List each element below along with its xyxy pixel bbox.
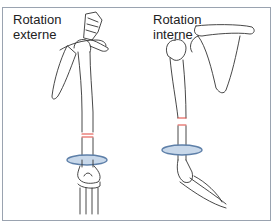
clavicle-icon: [194, 25, 254, 36]
internal-rotation-panel: [162, 25, 254, 208]
elbow-icon: [78, 166, 100, 183]
humerus-shaft-icon: [78, 52, 82, 132]
rotation-arrow-icon: [67, 155, 107, 165]
humerus-head-icon: [166, 39, 186, 60]
elbow-icon: [177, 160, 192, 183]
scapula-icon: [198, 36, 240, 93]
external-rotation-panel: [52, 12, 108, 214]
scapula-icon: [52, 46, 76, 99]
humerus-shaft-icon: [170, 58, 178, 118]
rotation-arrow-icon: [162, 145, 202, 155]
forearm-icon: [80, 188, 98, 214]
forearm-icon: [180, 182, 226, 208]
anatomy-illustration: [0, 0, 275, 224]
